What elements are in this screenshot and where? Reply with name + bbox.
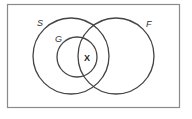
set-s-label: S	[37, 18, 43, 28]
venn-diagram: S G F X	[0, 0, 192, 119]
region-marker-x: X	[84, 53, 90, 63]
set-f-label: F	[146, 19, 152, 29]
set-g-circle	[57, 37, 97, 77]
set-g-label: G	[55, 34, 62, 44]
